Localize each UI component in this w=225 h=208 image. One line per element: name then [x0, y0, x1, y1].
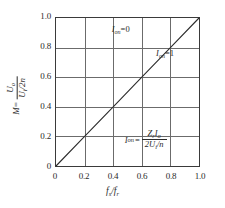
annotation-ion-formula: Ion= ZrIo 2Ui/n — [125, 129, 167, 151]
x-axis-title-sub2: r — [116, 190, 119, 197]
annotation-ion-zero-value: 0 — [125, 24, 129, 34]
plot-area: Ion=0 Ion=1 Ion= ZrIo 2Ui/n — [55, 17, 200, 167]
y-tick-label: 0 — [27, 161, 51, 171]
y-tick-label: 0.6 — [27, 71, 51, 81]
x-tick-label: 0 — [43, 171, 67, 181]
y-tick-label: 1.0 — [27, 11, 51, 21]
y-tick-label: 0.4 — [27, 101, 51, 111]
formula-denominator: 2Ui/n — [142, 140, 167, 150]
annotation-ion-one: Ion=1 — [156, 48, 174, 59]
y-axis-title-equals: = — [11, 102, 21, 107]
formula-denominator-tail: /n — [157, 139, 164, 149]
x-axis-title: fs/fr — [0, 186, 225, 197]
chart-figure: Ion=0 Ion=1 Ion= ZrIo 2Ui/n 00.20.40.60.… — [0, 0, 225, 208]
y-axis-title: M= Uo Ui/2n — [6, 52, 29, 138]
x-tick-label: 1.0 — [188, 171, 212, 181]
formula-fraction: ZrIo 2Ui/n — [142, 129, 167, 151]
x-tick-label: 0.4 — [101, 171, 125, 181]
y-tick-label: 0.2 — [27, 131, 51, 141]
y-axis-title-numerator-var: U — [5, 86, 15, 93]
formula-numerator-i-sub: o — [158, 132, 161, 139]
y-axis-title-denominator: Ui/2n — [18, 76, 29, 100]
annotation-ion-one-value: 1 — [170, 48, 174, 58]
y-axis-title-numerator-sub: o — [9, 83, 16, 86]
annotation-ion-zero: Ion=0 — [112, 24, 130, 35]
formula-denominator-lead: 2U — [145, 139, 155, 149]
y-axis-title-fraction: Uo Ui/2n — [6, 76, 29, 100]
x-tick-label: 0.2 — [72, 171, 96, 181]
x-tick-label: 0.8 — [159, 171, 183, 181]
y-axis-title-m: M — [11, 107, 21, 115]
x-tick-label: 0.6 — [130, 171, 154, 181]
y-axis-title-denominator-tail: /2n — [17, 78, 27, 90]
y-axis-title-denominator-sub: i — [21, 90, 28, 92]
formula-equals: = — [134, 135, 141, 145]
y-tick-label: 0.8 — [27, 41, 51, 51]
y-axis-title-denominator-var: U — [17, 91, 27, 98]
